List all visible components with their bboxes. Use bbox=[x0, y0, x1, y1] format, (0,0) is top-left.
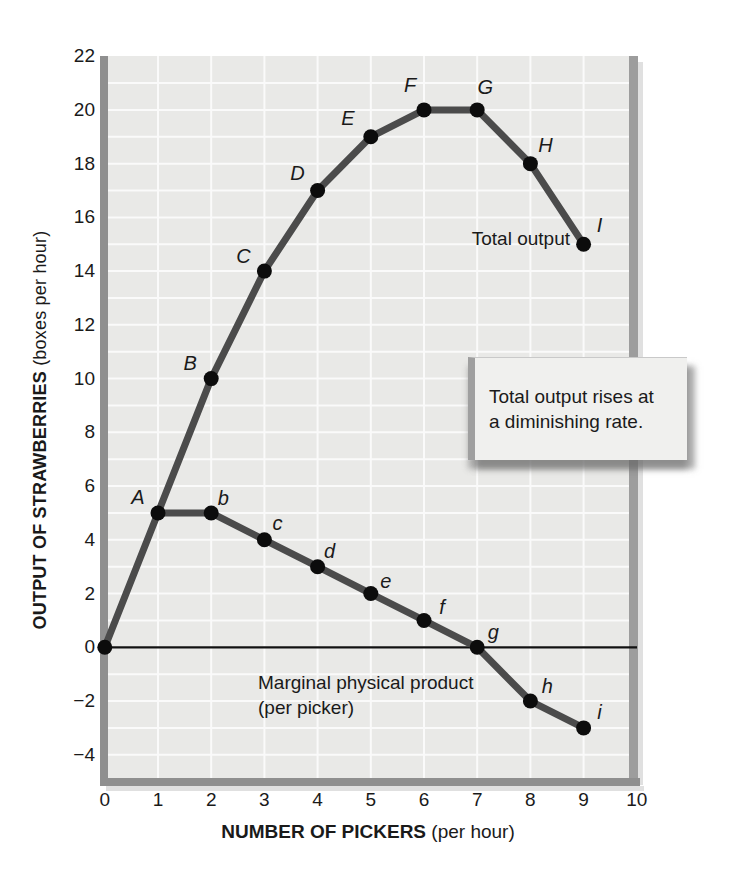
data-point-F bbox=[417, 102, 432, 117]
y-tick-label--4: −4 bbox=[43, 744, 95, 766]
data-point-B bbox=[204, 371, 219, 386]
y-tick-label-20: 20 bbox=[43, 99, 95, 121]
data-point-g bbox=[470, 640, 485, 655]
y-tick-label-18: 18 bbox=[43, 153, 95, 175]
y-tick-label-6: 6 bbox=[43, 475, 95, 497]
y-tick-label-16: 16 bbox=[43, 206, 95, 228]
mpp-curve-label-line1: Marginal physical product bbox=[258, 670, 473, 695]
point-label-c: c bbox=[272, 513, 282, 533]
y-axis-bar bbox=[100, 56, 108, 785]
point-label-F: F bbox=[404, 75, 416, 95]
data-point-c bbox=[257, 532, 272, 547]
point-label-g: g bbox=[488, 622, 499, 642]
data-point-d bbox=[310, 559, 325, 574]
total-output-curve-label: Total output bbox=[430, 228, 570, 250]
x-tick-label-0: 0 bbox=[100, 789, 111, 811]
data-point-h bbox=[523, 694, 538, 709]
point-label-A: A bbox=[131, 487, 144, 507]
callout-line1: Total output rises at bbox=[489, 384, 687, 409]
x-tick-label-8: 8 bbox=[525, 789, 536, 811]
data-point-D bbox=[310, 183, 325, 198]
y-axis-title-unit: (boxes per hour) bbox=[30, 231, 50, 371]
mpp-curve-label: Marginal physical product (per picker) bbox=[258, 670, 473, 720]
y-tick-label-14: 14 bbox=[43, 260, 95, 282]
x-tick-label-5: 5 bbox=[366, 789, 377, 811]
y-tick-label--2: −2 bbox=[43, 690, 95, 712]
data-point-f bbox=[417, 613, 432, 628]
x-tick-label-7: 7 bbox=[472, 789, 483, 811]
point-label-e: e bbox=[380, 571, 391, 591]
x-axis-title-unit: (per hour) bbox=[426, 821, 515, 842]
data-point-H bbox=[523, 156, 538, 171]
data-point-A bbox=[151, 505, 166, 520]
point-label-H: H bbox=[538, 135, 552, 155]
callout-line2: a diminishing rate. bbox=[489, 409, 687, 434]
figure-strawberry-output-chart: OUTPUT OF STRAWBERRIES (boxes per hour) … bbox=[0, 0, 733, 886]
x-axis-title: NUMBER OF PICKERS (per hour) bbox=[221, 821, 515, 843]
data-point-i bbox=[576, 720, 591, 735]
x-tick-label-4: 4 bbox=[312, 789, 323, 811]
point-label-I: I bbox=[597, 215, 603, 235]
point-label-E: E bbox=[341, 108, 354, 128]
data-point-total-output-curve-x0 bbox=[97, 640, 112, 655]
x-tick-label-1: 1 bbox=[153, 789, 164, 811]
point-label-b: b bbox=[218, 488, 229, 508]
data-point-b bbox=[204, 505, 219, 520]
data-point-I bbox=[576, 237, 591, 252]
data-point-C bbox=[257, 264, 272, 279]
point-label-B: B bbox=[184, 353, 197, 373]
y-tick-label-10: 10 bbox=[43, 368, 95, 390]
x-axis-title-main: NUMBER OF PICKERS bbox=[221, 821, 426, 842]
point-label-i: i bbox=[597, 702, 601, 722]
data-point-E bbox=[363, 129, 378, 144]
point-label-h: h bbox=[542, 676, 553, 696]
mpp-curve-label-line2: (per picker) bbox=[258, 695, 473, 720]
x-tick-label-10: 10 bbox=[626, 789, 647, 811]
data-point-G bbox=[470, 102, 485, 117]
point-label-d: d bbox=[324, 541, 335, 561]
data-point-e bbox=[363, 586, 378, 601]
y-tick-label-12: 12 bbox=[43, 314, 95, 336]
y-tick-label-22: 22 bbox=[43, 45, 95, 67]
x-tick-label-6: 6 bbox=[419, 789, 430, 811]
x-tick-label-9: 9 bbox=[578, 789, 589, 811]
x-tick-label-3: 3 bbox=[259, 789, 270, 811]
point-label-C: C bbox=[236, 246, 250, 266]
y-tick-label-2: 2 bbox=[43, 583, 95, 605]
point-label-f: f bbox=[439, 597, 445, 617]
x-axis-bar bbox=[100, 778, 640, 786]
y-tick-label-4: 4 bbox=[43, 529, 95, 551]
callout-box: Total output rises at a diminishing rate… bbox=[468, 357, 687, 460]
y-tick-label-8: 8 bbox=[43, 421, 95, 443]
point-label-G: G bbox=[477, 77, 493, 97]
y-tick-label-0: 0 bbox=[43, 636, 95, 658]
point-label-D: D bbox=[290, 163, 304, 183]
x-tick-label-2: 2 bbox=[206, 789, 217, 811]
